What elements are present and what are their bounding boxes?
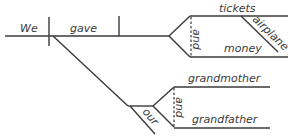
- subject-word: We: [20, 22, 38, 35]
- modifier-our: our: [140, 106, 163, 129]
- direct-object-money: money: [224, 42, 262, 55]
- direct-object-conjunction: and: [190, 29, 203, 51]
- indirect-object-conjunction: and: [173, 97, 186, 119]
- direct-object-fork-lower: [169, 36, 190, 57]
- verb-word: gave: [70, 22, 97, 35]
- indirect-object-grandfather: grandfather: [192, 113, 259, 126]
- indirect-object-fork-upper: [153, 87, 174, 106]
- direct-object-tickets: tickets: [219, 2, 256, 15]
- direct-object-fork-upper: [169, 16, 190, 36]
- sentence-diagram: We gave and tickets money airplane our a…: [0, 0, 288, 140]
- indirect-object-grandmother: grandmother: [188, 72, 262, 85]
- indirect-object-diagonal: [53, 36, 128, 106]
